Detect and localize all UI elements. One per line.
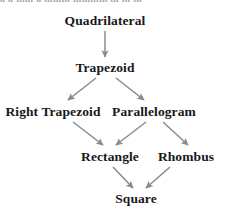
edge-rhombus-square [146, 167, 170, 188]
diagram-canvas: a a mm a mmm mmmm m m m Quadrilateral Tr… [0, 0, 225, 212]
edge-rectangle-square [113, 167, 133, 188]
node-quadrilateral[interactable]: Quadrilateral [65, 14, 146, 28]
edge-right-trapezoid-rectangle [73, 122, 103, 145]
edge-parallelogram-rectangle [116, 122, 146, 145]
node-rhombus[interactable]: Rhombus [158, 150, 214, 164]
node-right-trapezoid[interactable]: Right Trapezoid [5, 105, 100, 119]
node-square[interactable]: Square [115, 192, 157, 206]
edge-trapezoid-right-trapezoid [68, 78, 96, 100]
node-trapezoid[interactable]: Trapezoid [75, 61, 134, 75]
edge-parallelogram-rhombus [163, 122, 188, 145]
node-parallelogram[interactable]: Parallelogram [112, 105, 196, 119]
edge-trapezoid-parallelogram [116, 78, 144, 100]
node-rectangle[interactable]: Rectangle [81, 150, 139, 164]
